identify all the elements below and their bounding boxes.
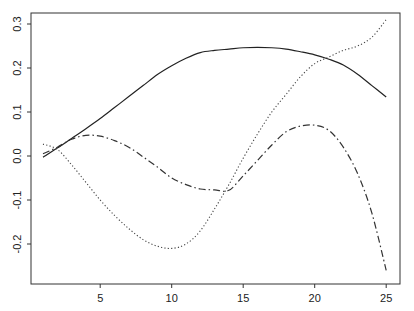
x-tick-label: 5 — [97, 292, 103, 304]
series-line-dash-dot — [43, 125, 386, 271]
y-tick-label: 0.1 — [11, 104, 23, 119]
y-tick-label: -0.2 — [11, 235, 23, 254]
x-tick-label: 25 — [380, 292, 392, 304]
x-tick-label: 20 — [309, 292, 321, 304]
plot-frame — [31, 13, 400, 284]
y-tick-label: 0.2 — [11, 60, 23, 75]
y-tick-label: -0.1 — [11, 191, 23, 210]
y-tick-label: 0.0 — [11, 148, 23, 163]
series-group — [43, 20, 386, 271]
x-axis: 510152025 — [97, 284, 392, 304]
series-line-solid — [43, 47, 386, 157]
series-line-dotted — [43, 20, 386, 249]
x-tick-label: 15 — [237, 292, 249, 304]
y-tick-label: 0.3 — [11, 16, 23, 31]
line-chart: -0.2-0.10.00.10.20.3 510152025 — [0, 0, 414, 311]
x-tick-label: 10 — [166, 292, 178, 304]
y-axis: -0.2-0.10.00.10.20.3 — [11, 16, 31, 253]
